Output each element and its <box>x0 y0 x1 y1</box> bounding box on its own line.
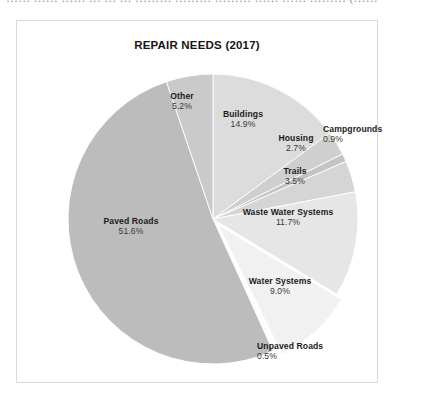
pie-label-other: Other 5.2% <box>149 91 215 112</box>
pie-label-unpaved-roads-value: 0.5% <box>257 351 323 361</box>
pie-label-other-value: 5.2% <box>149 101 215 111</box>
pie-label-paved-roads-value: 51.6% <box>75 226 187 236</box>
pie-label-buildings-name: Buildings <box>223 109 263 119</box>
pie-label-water-systems: Water Systems 9.0% <box>215 276 345 297</box>
pie-label-water-systems-value: 9.0% <box>215 286 345 296</box>
pie-label-waste-water-systems: Waste Water Systems 11.7% <box>213 207 363 228</box>
pie-label-other-name: Other <box>170 91 193 101</box>
pie-label-waste-water-systems-value: 11.7% <box>213 217 363 227</box>
pie-label-unpaved-roads-name: Unpaved Roads <box>257 341 323 351</box>
pie-label-campgrounds: Campgrounds 0.9% <box>323 124 382 145</box>
pie-label-trails-value: 3.5% <box>264 176 326 186</box>
pie-chart <box>17 21 377 382</box>
pie-label-campgrounds-name: Campgrounds <box>323 124 382 134</box>
pie-label-trails-name: Trails <box>283 166 306 176</box>
pie-label-housing-value: 2.7% <box>260 143 332 153</box>
page-cutoff-text: …… …… …… … … … ……… ……… ……… …… …… ……… (…… <box>6 0 438 6</box>
pie-label-housing: Housing 2.7% <box>260 133 332 154</box>
pie-label-water-systems-name: Water Systems <box>249 276 312 286</box>
pie-label-paved-roads-name: Paved Roads <box>103 216 158 226</box>
chart-frame: REPAIR NEEDS (2017) Buildings 14.9% Hous… <box>16 20 378 383</box>
pie-label-buildings: Buildings 14.9% <box>200 109 286 130</box>
pie-label-buildings-value: 14.9% <box>200 119 286 129</box>
pie-label-waste-water-systems-name: Waste Water Systems <box>243 207 334 217</box>
pie-label-paved-roads: Paved Roads 51.6% <box>75 216 187 237</box>
pie-label-campgrounds-value: 0.9% <box>323 134 382 144</box>
pie-label-trails: Trails 3.5% <box>264 166 326 187</box>
pie-label-housing-name: Housing <box>278 133 313 143</box>
pie-label-unpaved-roads: Unpaved Roads 0.5% <box>257 341 323 362</box>
